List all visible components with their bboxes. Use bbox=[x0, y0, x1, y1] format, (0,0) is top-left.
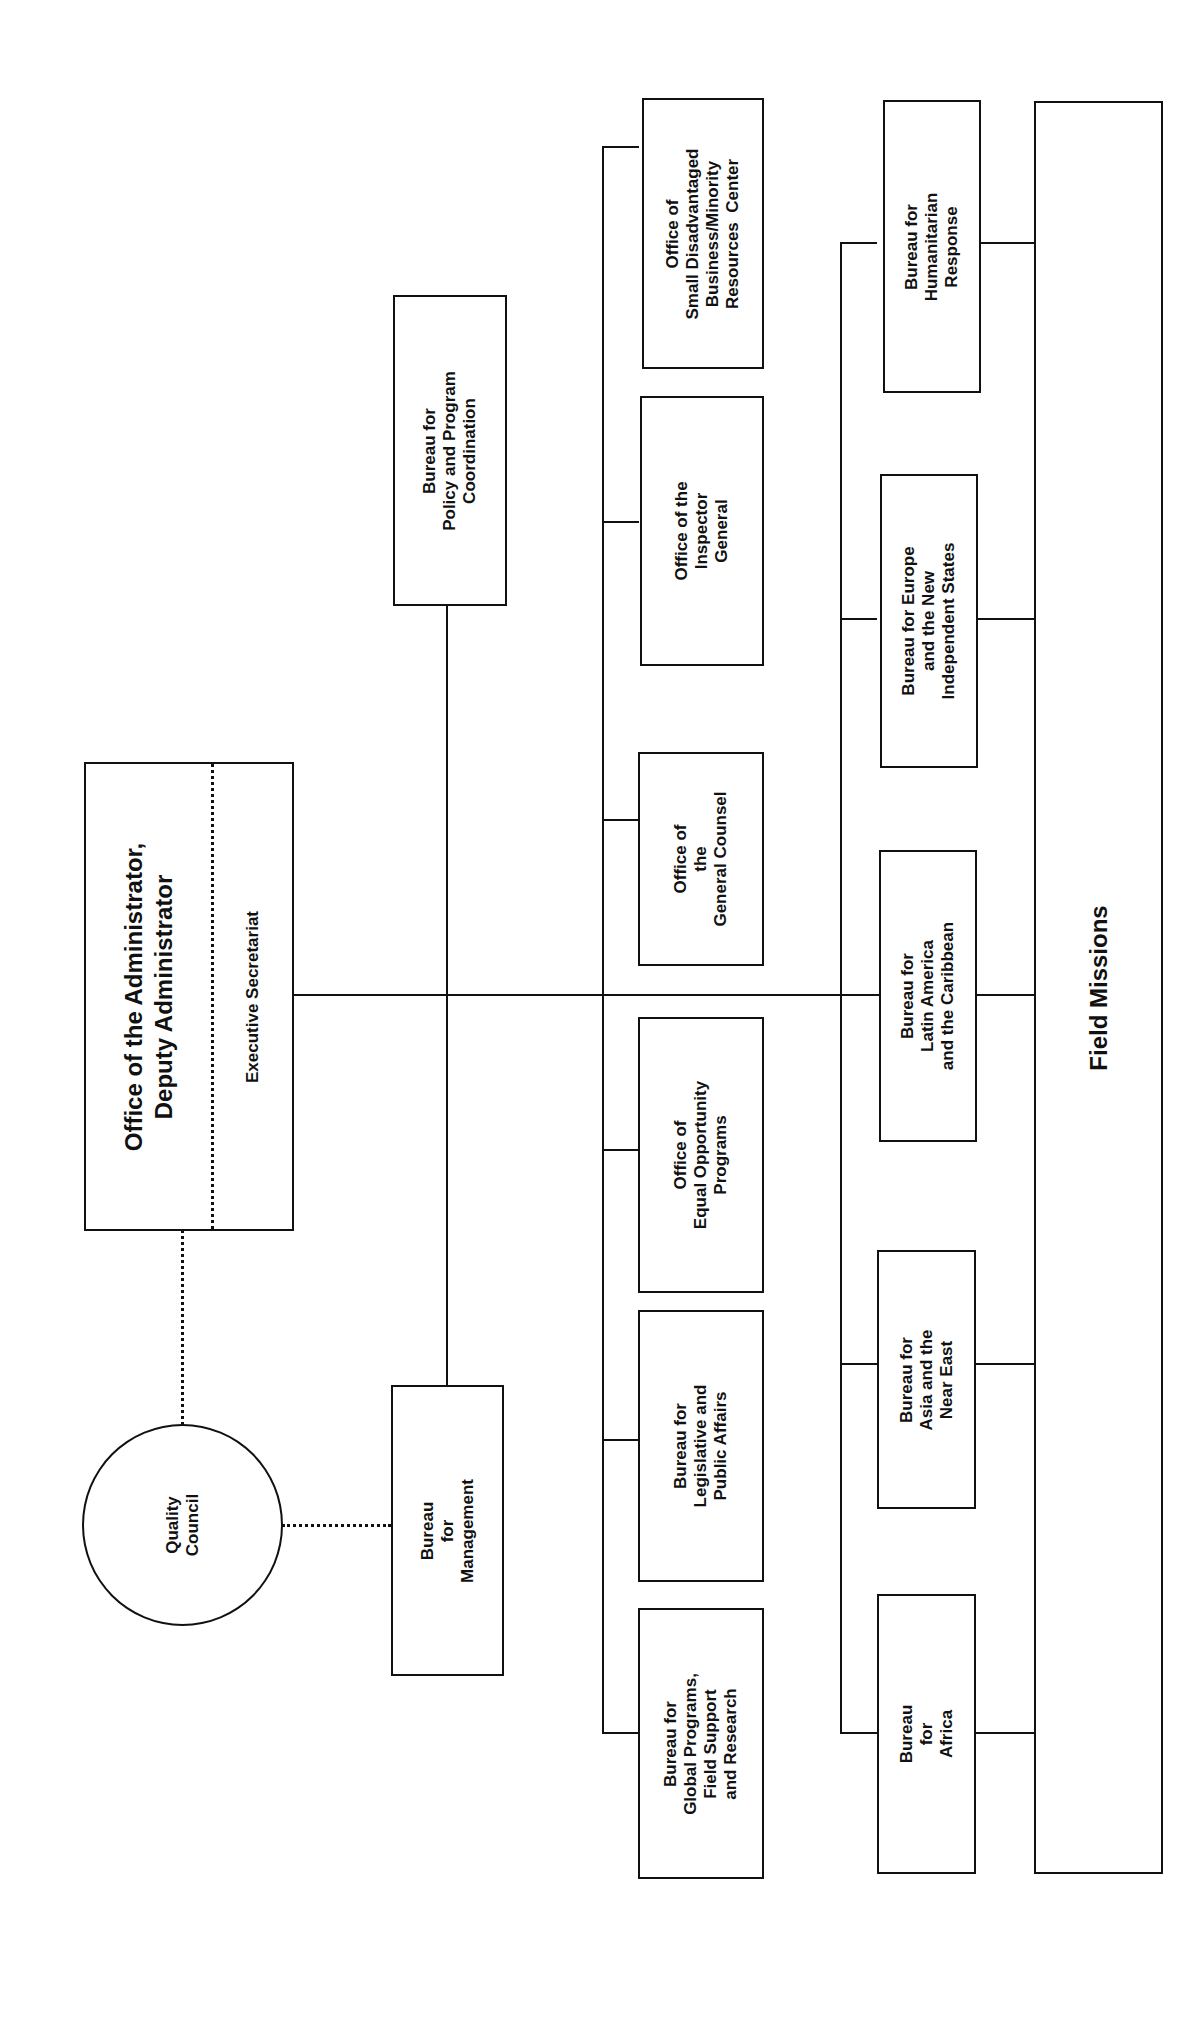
bureau-enis-label: Bureau for Europe and the New Independen… bbox=[899, 543, 959, 700]
bureau-lac-label: Bureau for Latin America and the Caribbe… bbox=[898, 922, 958, 1070]
office-sdb-box[interactable]: Office of Small Disadvantaged Business/M… bbox=[642, 98, 764, 369]
office-eop-label: Office of Equal Opportunity Programs bbox=[671, 1081, 731, 1229]
quality-management-dotted-line bbox=[282, 1524, 391, 1527]
bureau-bhr-box[interactable]: Bureau for Humanitarian Response bbox=[883, 100, 981, 393]
bureau-management-label: Bureau for Management bbox=[418, 1479, 478, 1583]
bureau-ane-label: Bureau for Asia and the Near East bbox=[897, 1329, 957, 1430]
bureau-lpa-label: Bureau for Legislative and Public Affair… bbox=[671, 1385, 731, 1508]
bureau-ppc-box[interactable]: Bureau for Policy and Program Coordinati… bbox=[393, 295, 507, 606]
bureau-gpfsr-box[interactable]: Bureau for Global Programs, Field Suppor… bbox=[638, 1608, 764, 1879]
office-gc-label: Office of the General Counsel bbox=[671, 791, 731, 926]
connector-eop bbox=[602, 1149, 639, 1151]
bureau-bhr-label: Bureau for Humanitarian Response bbox=[902, 192, 962, 301]
field-missions-label: Field Missions bbox=[1089, 905, 1109, 1070]
connector-ig bbox=[602, 521, 639, 523]
bureau-lpa-box[interactable]: Bureau for Legislative and Public Affair… bbox=[638, 1310, 764, 1582]
admin-office-title: Office of the Administrator, Deputy Admi… bbox=[119, 842, 179, 1150]
admin-office-box[interactable]: Office of the Administrator, Deputy Admi… bbox=[84, 762, 294, 1231]
bureau-gpfsr-label: Bureau for Global Programs, Field Suppor… bbox=[661, 1673, 741, 1815]
lac-field-connector bbox=[976, 994, 1035, 996]
bureau-management-box[interactable]: Bureau for Management bbox=[391, 1385, 504, 1676]
quality-council-circle[interactable]: Quality Council bbox=[82, 1424, 283, 1626]
connector-ane bbox=[840, 1363, 877, 1365]
enis-field-connector bbox=[975, 618, 1035, 620]
ane-field-connector bbox=[975, 1363, 1035, 1365]
bureau-africa-label: Bureau for Africa bbox=[897, 1705, 957, 1764]
field-missions-box[interactable]: Field Missions bbox=[1034, 101, 1163, 1874]
middle-row-bus bbox=[602, 146, 604, 1733]
regional-row-bus bbox=[840, 242, 842, 1733]
office-sdb-label: Office of Small Disadvantaged Business/M… bbox=[663, 148, 743, 319]
bhr-field-connector bbox=[975, 242, 1035, 244]
connector-gc bbox=[602, 819, 639, 821]
connector-lpa bbox=[602, 1439, 639, 1441]
connector-bhr bbox=[840, 242, 877, 244]
bureau-ppc-label: Bureau for Policy and Program Coordinati… bbox=[420, 371, 480, 531]
office-gc-box[interactable]: Office of the General Counsel bbox=[638, 752, 764, 966]
bureau-ane-box[interactable]: Bureau for Asia and the Near East bbox=[877, 1250, 976, 1509]
quality-council-label: Quality Council bbox=[163, 1494, 203, 1556]
office-ig-box[interactable]: Office of the Inspector General bbox=[640, 396, 764, 666]
connector-enis bbox=[840, 618, 877, 620]
connector-gpfsr bbox=[602, 1732, 639, 1734]
africa-field-connector bbox=[975, 1732, 1035, 1734]
bureau-enis-box[interactable]: Bureau for Europe and the New Independen… bbox=[880, 474, 978, 768]
bureau-africa-box[interactable]: Bureau for Africa bbox=[877, 1594, 976, 1874]
connector-africa bbox=[840, 1732, 877, 1734]
office-eop-box[interactable]: Office of Equal Opportunity Programs bbox=[638, 1017, 764, 1293]
admin-quality-dotted-line bbox=[181, 1230, 184, 1425]
office-ig-label: Office of the Inspector General bbox=[672, 481, 732, 580]
mgmt-ppc-connector bbox=[446, 604, 448, 1386]
connector-sdb bbox=[602, 146, 639, 148]
executive-secretariat-label: Executive Secretariat bbox=[243, 911, 263, 1083]
bureau-lac-box[interactable]: Bureau for Latin America and the Caribbe… bbox=[879, 850, 977, 1142]
